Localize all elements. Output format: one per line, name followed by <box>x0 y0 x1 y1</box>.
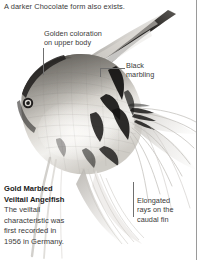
leader-line-black <box>100 68 125 69</box>
caption-body: The veiltail characteristic was first re… <box>4 205 82 247</box>
callout-golden-coloration: Golden coloration on upper body <box>44 29 102 48</box>
column-rule <box>196 0 197 260</box>
callout-rays-line-1: Elongated <box>137 196 174 205</box>
intro-text: A darker Chocolate form also exists. <box>4 2 189 11</box>
caption-title: Gold Marbled Veiltail Angelfish <box>4 184 82 205</box>
caption-title-line-2: Veiltail Angelfish <box>4 195 82 206</box>
caption-body-line-2: characteristic was <box>4 216 82 227</box>
leader-line-golden <box>43 48 44 75</box>
fish-eye <box>23 98 33 108</box>
page-root: A darker Chocolate form also exists. Gol… <box>0 0 205 260</box>
figure-caption: Gold Marbled Veiltail Angelfish The veil… <box>4 184 82 248</box>
caption-title-line-1: Gold Marbled <box>4 184 82 195</box>
caption-body-line-1: The veiltail <box>4 205 82 216</box>
leader-line-black-stub <box>100 68 101 77</box>
callout-golden-line-2: on upper body <box>44 38 102 47</box>
callout-rays-line-2: rays on the <box>137 205 174 214</box>
leader-line-rays <box>133 182 134 217</box>
callout-black-marbling: Black marbling <box>126 61 154 80</box>
caption-body-line-3: first recorded in <box>4 226 82 237</box>
callout-golden-line-1: Golden coloration <box>44 29 102 38</box>
callout-black-line-2: marbling <box>126 70 154 79</box>
callout-rays-line-3: caudal fin <box>137 215 174 224</box>
callout-black-line-1: Black <box>126 61 154 70</box>
callout-elongated-rays: Elongated rays on the caudal fin <box>137 196 174 224</box>
caption-body-line-4: 1956 in Germany. <box>4 237 82 248</box>
